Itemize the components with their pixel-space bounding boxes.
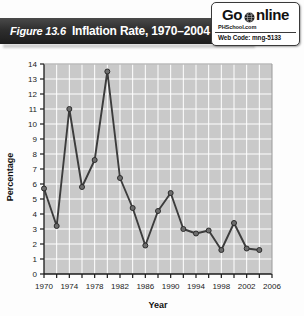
svg-text:0: 0 xyxy=(33,270,38,279)
badge-web-code: Web Code: mng-5133 xyxy=(215,34,296,42)
svg-text:3: 3 xyxy=(33,225,38,234)
badge-headline: Go nline xyxy=(215,4,296,24)
svg-text:4: 4 xyxy=(33,210,38,219)
y-axis-title: Percentage xyxy=(5,153,15,202)
x-axis-title: Year xyxy=(148,300,168,310)
svg-text:2: 2 xyxy=(33,240,38,249)
svg-text:1978: 1978 xyxy=(86,282,104,291)
svg-text:14: 14 xyxy=(28,60,37,69)
svg-text:10: 10 xyxy=(28,120,37,129)
svg-text:8: 8 xyxy=(33,150,38,159)
go-online-badge[interactable]: Go nline PHSchool.com Web Code: mng-5133 xyxy=(211,2,300,46)
figure-page: Figure 13.6 Inflation Rate, 1970–2004 Go… xyxy=(0,0,304,316)
svg-text:7: 7 xyxy=(33,165,38,174)
inflation-line-chart: 01234567891011121314 1970197419781982198… xyxy=(0,52,304,316)
y-axis-tick-labels: 01234567891011121314 xyxy=(28,60,37,279)
badge-online-label: nline xyxy=(256,7,289,22)
svg-text:1994: 1994 xyxy=(187,282,205,291)
svg-text:6: 6 xyxy=(33,180,38,189)
svg-text:2006: 2006 xyxy=(263,282,281,291)
svg-text:1982: 1982 xyxy=(111,282,129,291)
svg-text:9: 9 xyxy=(33,135,38,144)
figure-number: Figure 13.6 xyxy=(10,25,66,37)
svg-text:13: 13 xyxy=(28,75,37,84)
x-axis-tick-labels: 1970197419781982198619901994199820022006 xyxy=(35,282,281,291)
svg-text:12: 12 xyxy=(28,90,37,99)
globe-icon xyxy=(244,9,255,20)
svg-text:1974: 1974 xyxy=(60,282,78,291)
svg-text:1990: 1990 xyxy=(162,282,180,291)
svg-text:2002: 2002 xyxy=(238,282,256,291)
badge-divider xyxy=(215,32,296,33)
svg-text:11: 11 xyxy=(29,105,38,114)
svg-text:1986: 1986 xyxy=(136,282,154,291)
svg-text:1998: 1998 xyxy=(212,282,230,291)
svg-text:5: 5 xyxy=(33,195,38,204)
badge-site-label: PHSchool.com xyxy=(215,24,296,31)
figure-title: Inflation Rate, 1970–2004 xyxy=(72,24,210,38)
chart-canvas: 01234567891011121314 1970197419781982198… xyxy=(0,52,304,316)
badge-go-label: Go xyxy=(222,7,242,22)
svg-text:1: 1 xyxy=(33,255,38,264)
svg-text:1970: 1970 xyxy=(35,282,53,291)
